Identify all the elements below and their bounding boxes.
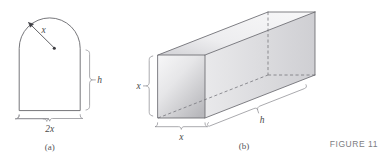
prism-depth-bracket bbox=[143, 56, 152, 116]
prism-depth-label: x bbox=[135, 81, 141, 91]
panel-b-prism: x x h (b) bbox=[135, 12, 315, 151]
arch-width-bracket-path bbox=[17, 115, 83, 122]
panel-a-caption: (a) bbox=[45, 142, 55, 152]
figure-number-label: FIGURE 11 bbox=[330, 139, 378, 149]
arch-height-label: h bbox=[97, 75, 102, 85]
arch-width-label: 2x bbox=[45, 124, 55, 134]
figure-illustration: x h 2x (a) bbox=[0, 0, 383, 161]
panel-b-caption: (b) bbox=[239, 141, 250, 151]
prism-length-label: h bbox=[260, 115, 265, 125]
arch-height-bracket bbox=[86, 50, 95, 110]
prism-front-face bbox=[158, 55, 205, 118]
arch-radius-label: x bbox=[40, 25, 46, 35]
prism-width-bracket bbox=[155, 123, 208, 130]
arch-center-dot bbox=[53, 47, 56, 50]
arch-outline bbox=[19, 18, 80, 110]
figure-11-container: x h 2x (a) bbox=[0, 0, 383, 161]
panel-a-arch: x h 2x (a) bbox=[15, 18, 102, 152]
prism-width-label: x bbox=[178, 132, 184, 142]
